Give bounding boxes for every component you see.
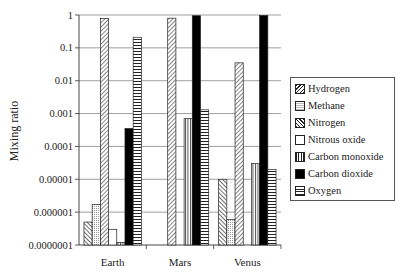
legend-swatch-icon xyxy=(295,135,305,145)
legend-label: Carbon dioxide xyxy=(308,168,373,179)
legend-item-hydrogen: Hydrogen xyxy=(295,80,394,97)
x-tick-label: Venus xyxy=(234,256,261,268)
bar-oxygen-mars xyxy=(201,110,209,245)
legend-label: Carbon monoxide xyxy=(308,151,384,162)
legend-swatch-icon xyxy=(295,186,305,196)
legend-swatch-icon xyxy=(295,101,305,111)
legend-item-methane: Methane xyxy=(295,97,394,114)
legend-swatch-icon xyxy=(295,169,305,179)
legend-item-carbon-monoxide: Carbon monoxide xyxy=(295,148,394,165)
x-axis-labels: EarthMarsVenus xyxy=(101,256,261,268)
y-tick-label: 0.1 xyxy=(60,42,73,53)
bar-methane-earth xyxy=(92,205,100,245)
bar-carbon-dioxide-venus xyxy=(260,16,268,245)
legend-label: Methane xyxy=(308,100,345,111)
y-tick-label: 1 xyxy=(68,10,73,21)
legend-swatch-icon xyxy=(295,152,305,162)
legend-swatch-icon xyxy=(295,84,305,94)
x-tick-label: Mars xyxy=(169,256,192,268)
bar-oxygen-venus xyxy=(268,169,276,245)
bar-hydrogen-earth xyxy=(84,222,92,245)
legend: HydrogenMethaneNitrogenNitrous oxideCarb… xyxy=(290,77,395,201)
bar-oxygen-earth xyxy=(133,37,141,245)
bar-nitrogen-venus xyxy=(235,63,243,245)
bar-carbon-dioxide-earth xyxy=(125,129,133,245)
legend-label: Hydrogen xyxy=(308,83,350,94)
legend-label: Nitrous oxide xyxy=(308,134,365,145)
legend-item-carbon-dioxide: Carbon dioxide xyxy=(295,165,394,182)
bar-carbon-monoxide-venus xyxy=(251,164,259,245)
bar-carbon-dioxide-mars xyxy=(192,16,200,245)
bar-methane-venus xyxy=(227,219,235,245)
gridlines xyxy=(79,15,281,212)
legend-swatch-icon xyxy=(295,118,305,128)
bars xyxy=(84,16,276,245)
y-tick-label: 0.0001 xyxy=(44,141,73,152)
y-tick-label: 0.000001 xyxy=(34,207,73,218)
bar-carbon-monoxide-earth xyxy=(117,242,125,245)
y-tick-label: 0.01 xyxy=(55,75,73,86)
y-tick-label: 0.001 xyxy=(49,108,73,119)
legend-label: Oxygen xyxy=(308,185,341,196)
bar-nitrogen-earth xyxy=(100,19,108,245)
bar-nitrous-oxide-earth xyxy=(109,229,117,245)
x-tick-label: Earth xyxy=(101,256,125,268)
bar-hydrogen-venus xyxy=(219,179,227,245)
legend-item-nitrogen: Nitrogen xyxy=(295,114,394,131)
bar-carbon-monoxide-mars xyxy=(184,119,192,245)
y-axis-label: Mixing ratio xyxy=(7,101,21,161)
bar-nitrogen-mars xyxy=(168,18,176,245)
y-tick-label: 0.0000001 xyxy=(28,240,73,251)
legend-item-oxygen: Oxygen xyxy=(295,182,394,199)
legend-item-nitrous-oxide: Nitrous oxide xyxy=(295,131,394,148)
legend-label: Nitrogen xyxy=(308,117,345,128)
y-tick-label: 0.00001 xyxy=(39,174,73,185)
